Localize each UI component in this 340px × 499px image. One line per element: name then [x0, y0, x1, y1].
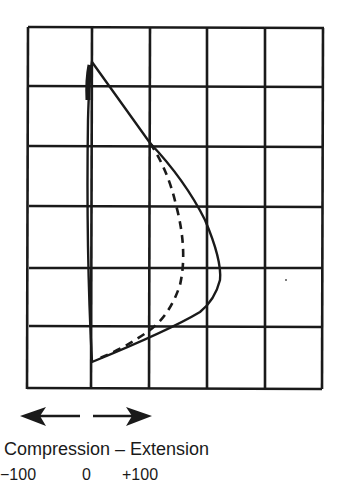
tick-label-neg: −100	[0, 466, 36, 484]
tick-label-pos: +100	[122, 466, 158, 484]
direction-arrows	[20, 407, 152, 426]
compression-arrow-icon	[20, 407, 80, 426]
tick-label-zero: 0	[82, 466, 91, 484]
solid-loop-curve	[88, 62, 221, 362]
left-edge-thick	[88, 65, 90, 100]
speck	[285, 279, 287, 281]
extension-arrow-icon	[93, 407, 152, 426]
axis-title: Compression – Extension	[4, 439, 209, 460]
force-displacement-diagram	[0, 0, 340, 430]
